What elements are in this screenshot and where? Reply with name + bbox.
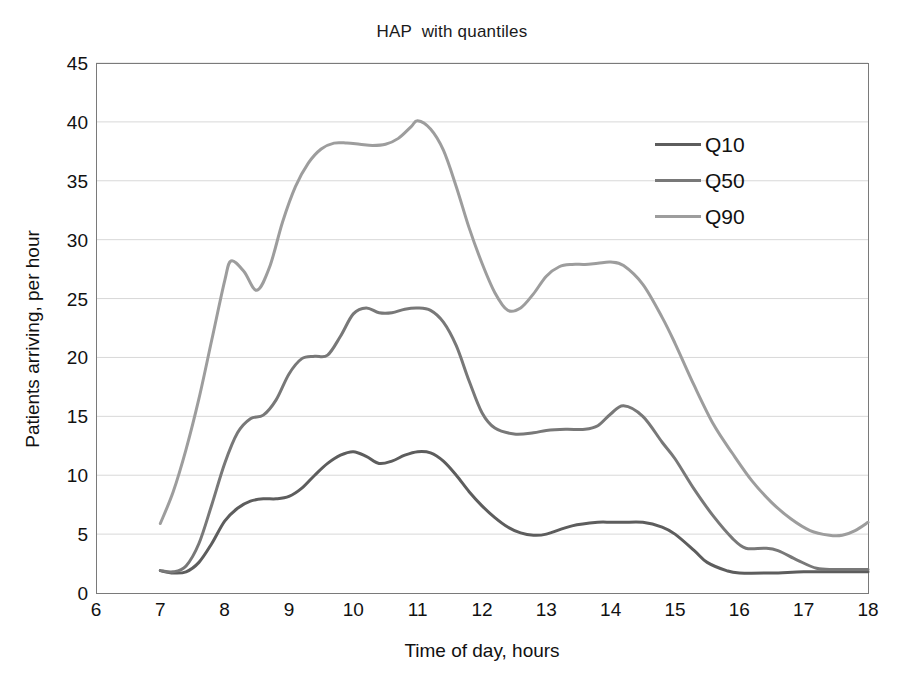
legend-item-label: Q10	[705, 134, 745, 155]
legend-item-q50[interactable]: Q50	[655, 162, 835, 198]
legend-item-q90[interactable]: Q90	[655, 198, 835, 234]
chart-legend: Q10Q50Q90	[655, 126, 835, 234]
legend-swatch-icon	[655, 179, 701, 182]
legend-item-q10[interactable]: Q10	[655, 126, 835, 162]
legend-swatch-icon	[655, 215, 701, 218]
chart-container: HAP with quantiles Patients arriving, pe…	[0, 0, 904, 687]
legend-swatch-icon	[655, 143, 701, 146]
series-line-q10	[160, 451, 868, 573]
legend-item-label: Q90	[705, 206, 745, 227]
legend-item-label: Q50	[705, 170, 745, 191]
series-line-q50	[160, 308, 868, 572]
plot-area	[0, 0, 904, 687]
